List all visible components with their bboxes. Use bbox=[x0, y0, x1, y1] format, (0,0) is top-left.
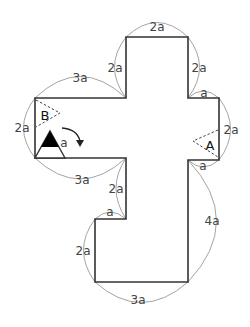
label-right-step-bottom: a bbox=[199, 159, 206, 173]
cross-diagram: 2a 2a 2a 3a a 2a 2a 3a a 2a a 2a 4a 3a B… bbox=[0, 0, 250, 327]
point-b-label: B bbox=[41, 108, 50, 123]
label-lower-inner-vertical: 2a bbox=[109, 182, 124, 196]
label-right-end: 2a bbox=[224, 123, 239, 137]
label-top: 2a bbox=[150, 20, 165, 34]
label-lower-step: a bbox=[106, 205, 113, 219]
label-bottom: 3a bbox=[131, 293, 146, 307]
label-right-long-vertical: 4a bbox=[205, 214, 220, 228]
point-a-label: A bbox=[206, 138, 215, 153]
label-left-end: 2a bbox=[15, 121, 30, 135]
label-left-arm-top: 3a bbox=[73, 71, 88, 85]
label-lower-left-vertical: 2a bbox=[76, 244, 91, 258]
label-right-step-top: a bbox=[200, 86, 207, 100]
arrowhead-icon bbox=[76, 140, 84, 147]
label-left-arm-bottom: 3a bbox=[75, 173, 90, 187]
label-upper-right-vertical: 2a bbox=[192, 61, 207, 75]
label-upper-left-vertical: 2a bbox=[108, 61, 123, 75]
triangle-side-label: a bbox=[60, 136, 67, 150]
triangle-filled-tip bbox=[41, 131, 59, 147]
